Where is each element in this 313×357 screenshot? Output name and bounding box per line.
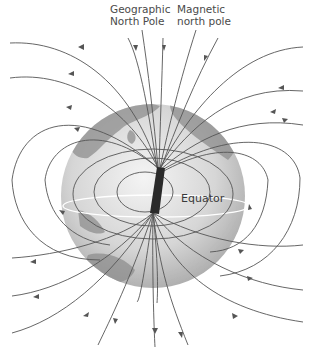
magnetic-north-pole-label: Magnetic north pole [177, 3, 231, 27]
geographic-label-line1: Geographic [110, 3, 170, 15]
magnetic-field-diagram [0, 0, 313, 357]
equator-label: Equator [181, 193, 224, 205]
magnetic-label-line1: Magnetic [177, 3, 231, 15]
geographic-north-pole-label: Geographic North Pole [110, 3, 170, 27]
geographic-label-line2: North Pole [110, 15, 170, 27]
magnetic-label-line2: north pole [177, 15, 231, 27]
